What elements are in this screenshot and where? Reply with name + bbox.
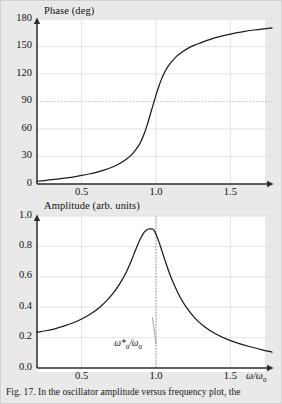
x-tick-label: 1.5 [210,370,250,381]
amplitude-x-axis-title: ω/ω0 [246,370,266,384]
figure-caption: Fig. 17. In the oscillator amplitude ver… [6,386,278,404]
y-tick-label: 0.4 [2,300,32,311]
annotation-subscript: 0 [139,343,143,351]
y-tick-label: 120 [2,67,32,78]
x-axis-arrow [267,365,274,371]
x-tick-label: 0.5 [62,370,102,381]
x-axis-arrow [267,181,274,187]
phase-chart-panel: Phase (deg) 0306090120150180 0.51.01.5 [0,0,282,196]
resonance-annotation-label: ω*0/ω0 [114,338,142,351]
y-tick-label: 30 [2,149,32,160]
y-tick-label: 180 [2,12,32,23]
amplitude-plot-area [0,196,282,382]
y-tick-label: 60 [2,122,32,133]
phase-plot-svg [0,0,282,196]
phase-y-axis-title: Phase (deg) [44,5,94,16]
figure-container: Phase (deg) 0306090120150180 0.51.01.5 A… [0,0,282,404]
amplitude-plot-svg [0,196,282,382]
amplitude-y-axis-title: Amplitude (arb. units) [44,200,140,211]
y-tick-label: 150 [2,39,32,50]
x-tick-label: 1.0 [136,370,176,381]
y-tick-label: 0.0 [2,361,32,372]
amplitude-plot-background [37,216,265,372]
y-tick-label: 1.0 [2,209,32,220]
y-tick-label: 0 [2,177,32,188]
amplitude-chart-panel: Amplitude (arb. units) 0.00.20.40.60.81.… [0,196,282,382]
y-tick-label: 90 [2,94,32,105]
phase-plot-area [0,0,282,196]
y-tick-label: 0.8 [2,239,32,250]
annotation-subscript: 0 [126,343,130,351]
xlabel-subscript: 0 [263,376,267,384]
y-tick-label: 0.6 [2,269,32,280]
y-tick-label: 0.2 [2,330,32,341]
